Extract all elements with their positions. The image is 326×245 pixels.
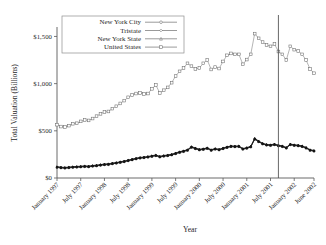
data-point-marker bbox=[186, 149, 188, 151]
series-path bbox=[57, 138, 314, 167]
data-point-marker bbox=[198, 149, 200, 151]
data-point-marker bbox=[261, 41, 264, 44]
data-point-marker bbox=[250, 146, 252, 148]
data-point-marker bbox=[151, 87, 154, 90]
data-point-marker bbox=[143, 93, 146, 96]
data-point-marker bbox=[226, 147, 228, 149]
data-point-marker bbox=[313, 150, 315, 152]
data-point-marker bbox=[56, 123, 59, 126]
data-point-marker bbox=[214, 66, 217, 69]
x-tick-label: June 2002 bbox=[293, 181, 317, 205]
series-new-york-state bbox=[56, 138, 315, 169]
data-point-marker bbox=[269, 45, 272, 48]
data-point-marker bbox=[91, 117, 94, 120]
data-point-marker bbox=[218, 149, 220, 151]
data-point-marker bbox=[115, 162, 117, 164]
x-axis-ticks: January 1997July 1997January 1998July 19… bbox=[30, 178, 317, 211]
data-point-marker bbox=[107, 164, 109, 166]
data-point-marker bbox=[266, 144, 268, 146]
data-point-marker bbox=[135, 92, 138, 95]
data-point-marker bbox=[238, 53, 241, 56]
data-point-marker bbox=[123, 99, 126, 102]
data-point-marker bbox=[60, 167, 62, 169]
data-point-marker bbox=[68, 167, 70, 169]
data-point-marker bbox=[269, 144, 271, 146]
data-point-marker bbox=[202, 62, 205, 65]
data-point-marker bbox=[103, 111, 106, 114]
data-point-marker bbox=[174, 75, 177, 78]
legend-label-united-states: United States bbox=[104, 43, 141, 50]
data-point-marker bbox=[297, 145, 299, 147]
x-tick-label: July 1997 bbox=[60, 180, 84, 204]
data-point-marker bbox=[111, 163, 113, 165]
data-point-marker bbox=[170, 81, 173, 84]
data-point-marker bbox=[60, 125, 63, 128]
data-point-marker bbox=[139, 92, 142, 95]
data-point-marker bbox=[198, 67, 201, 70]
data-point-marker bbox=[234, 146, 236, 148]
data-point-marker bbox=[257, 37, 260, 40]
y-axis-ticks: $0$500$1,000$1,500 bbox=[33, 33, 57, 182]
data-point-marker bbox=[131, 94, 134, 97]
data-point-marker bbox=[92, 165, 94, 167]
data-point-marker bbox=[160, 37, 163, 40]
y-tick-label: $0 bbox=[45, 174, 52, 181]
data-point-marker bbox=[179, 151, 181, 153]
series-united-states bbox=[56, 32, 316, 128]
data-point-marker bbox=[76, 166, 78, 168]
data-point-marker bbox=[64, 167, 66, 169]
data-point-marker bbox=[95, 115, 98, 118]
data-point-marker bbox=[289, 144, 291, 146]
data-point-marker bbox=[151, 155, 153, 157]
data-point-marker bbox=[75, 122, 78, 125]
y-tick-label: $500 bbox=[38, 127, 52, 134]
data-point-marker bbox=[305, 59, 308, 62]
data-point-marker bbox=[123, 161, 125, 163]
data-point-marker bbox=[115, 105, 118, 108]
data-point-marker bbox=[127, 96, 130, 99]
data-point-marker bbox=[155, 155, 157, 157]
data-point-marker bbox=[194, 68, 197, 71]
y-axis-title-label: Total Valuation (Billions) bbox=[10, 64, 19, 142]
data-point-marker bbox=[160, 21, 163, 24]
data-point-marker bbox=[210, 68, 213, 71]
data-point-marker bbox=[222, 60, 225, 63]
y-axis-title: Total Valuation (Billions) bbox=[10, 64, 19, 142]
data-point-marker bbox=[162, 89, 165, 92]
data-point-marker bbox=[313, 72, 316, 75]
data-point-marker bbox=[273, 144, 275, 146]
data-point-marker bbox=[135, 158, 137, 160]
x-tick-label: July 1999 bbox=[155, 180, 179, 204]
data-point-marker bbox=[107, 110, 110, 113]
data-point-marker bbox=[305, 147, 307, 149]
y-tick-label: $1,500 bbox=[33, 33, 52, 40]
data-point-marker bbox=[194, 148, 196, 150]
data-point-marker bbox=[178, 70, 181, 73]
data-point-marker bbox=[262, 143, 264, 145]
data-point-marker bbox=[293, 48, 296, 51]
data-point-marker bbox=[154, 84, 157, 87]
data-point-marker bbox=[95, 165, 97, 167]
data-point-marker bbox=[301, 146, 303, 148]
data-point-marker bbox=[202, 148, 204, 150]
data-point-marker bbox=[182, 67, 185, 70]
data-point-marker bbox=[254, 138, 256, 140]
data-point-marker bbox=[238, 146, 240, 148]
data-point-marker bbox=[68, 124, 71, 127]
data-point-marker bbox=[230, 146, 232, 148]
data-point-marker bbox=[163, 155, 165, 157]
data-point-marker bbox=[241, 63, 244, 66]
series-path bbox=[57, 139, 314, 168]
data-point-marker bbox=[99, 112, 102, 115]
data-point-marker bbox=[127, 160, 129, 162]
data-point-marker bbox=[147, 92, 150, 95]
data-point-marker bbox=[309, 68, 312, 71]
data-point-marker bbox=[71, 122, 74, 125]
chart-legend: New York CityTristateNew York StateUnite… bbox=[62, 16, 184, 53]
data-point-marker bbox=[182, 151, 184, 153]
series-tristate bbox=[56, 137, 315, 168]
data-point-marker bbox=[253, 32, 256, 35]
data-point-marker bbox=[206, 59, 209, 62]
x-tick-label: January 1997 bbox=[30, 180, 61, 211]
data-point-marker bbox=[111, 107, 114, 110]
